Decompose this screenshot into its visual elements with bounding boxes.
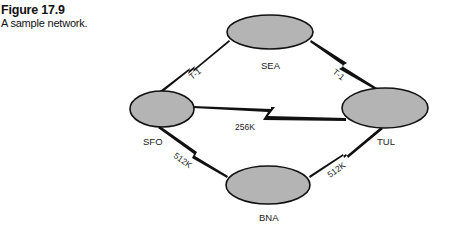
wan-link-zigzag-icon [158, 126, 228, 178]
link-label-sfo-bna: 512K [172, 150, 194, 170]
wan-link-zigzag-icon [309, 127, 383, 178]
router-node-icon [226, 166, 310, 204]
link-sfo-tul: 256K [193, 106, 346, 132]
node-label-sea: SEA [261, 60, 281, 71]
node-tul: TUL [342, 88, 428, 147]
link-bna-tul: 512K [309, 127, 383, 180]
router-node-icon [227, 15, 313, 49]
node-label-bna: BNA [259, 212, 279, 223]
link-label-sfo-sea: T-1 [187, 66, 203, 82]
router-node-icon [130, 91, 194, 127]
node-sfo: SFO [130, 91, 194, 147]
link-sfo-sea: T-1 [156, 40, 230, 95]
link-sfo-bna: 512K [158, 126, 228, 178]
node-bna: BNA [226, 166, 310, 223]
network-diagram: T-1 T-1 256K 512K 512K SEA SFO TUL BNA [0, 0, 459, 234]
node-label-tul: TUL [377, 136, 395, 147]
link-sea-tul: T-1 [310, 40, 377, 89]
link-label-sfo-tul: 256K [235, 122, 255, 132]
node-label-sfo: SFO [143, 136, 163, 147]
link-label-bna-tul: 512K [325, 160, 347, 180]
router-node-icon [342, 88, 428, 128]
wan-link-zigzag-icon [193, 106, 346, 121]
wan-link-zigzag-icon [310, 40, 377, 89]
wan-link-zigzag-icon [156, 40, 230, 95]
node-sea: SEA [227, 15, 313, 71]
